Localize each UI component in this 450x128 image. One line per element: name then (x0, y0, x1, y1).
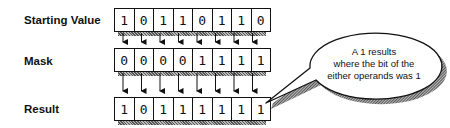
callout-line: where the bit of the (318, 58, 430, 70)
arrows-start-to-mask (123, 33, 253, 42)
arrows-mask-to-result (123, 73, 253, 91)
callout-line: either operands was 1 (318, 70, 430, 82)
callout-line: A 1 results (318, 46, 430, 58)
callout-text: A 1 results where the bit of the either … (318, 46, 430, 82)
